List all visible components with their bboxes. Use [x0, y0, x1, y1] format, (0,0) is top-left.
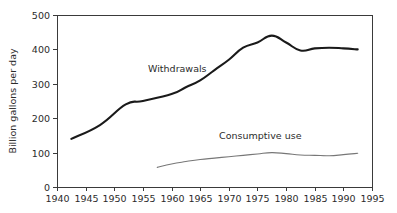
x-axis-tick-labels: 1940194519501955196019651970197519801985…: [45, 193, 384, 204]
x-tick-label: 1950: [102, 193, 126, 204]
series-annotation-consumptive-use: Consumptive use: [219, 130, 302, 141]
x-tick-label: 1980: [274, 193, 298, 204]
y-tick-label: 200: [32, 113, 50, 124]
plot-frame: [57, 15, 372, 187]
x-tick-label: 1975: [245, 193, 269, 204]
x-tick-label: 1960: [160, 193, 184, 204]
series-group: [71, 36, 357, 168]
x-tick-label: 1965: [188, 193, 212, 204]
y-tick-label: 300: [32, 79, 50, 90]
x-tick-label: 1995: [360, 193, 384, 204]
x-axis-ticks: [58, 187, 373, 191]
x-tick-label: 1945: [74, 193, 98, 204]
y-axis-tick-labels: 0100200300400500: [32, 10, 50, 193]
chart-figure: 0100200300400500 19401945195019551960196…: [0, 0, 397, 213]
y-tick-label: 100: [32, 148, 50, 159]
x-tick-label: 1970: [217, 193, 241, 204]
y-tick-label: 400: [32, 44, 50, 55]
y-axis-title: Billion gallons per day: [7, 48, 18, 154]
x-tick-label: 1940: [45, 193, 69, 204]
y-tick-label: 500: [32, 10, 50, 21]
y-tick-label: 0: [44, 182, 50, 193]
series-line-consumptive-use: [157, 153, 357, 168]
x-tick-label: 1955: [131, 193, 155, 204]
x-tick-label: 1990: [331, 193, 355, 204]
x-tick-label: 1985: [303, 193, 327, 204]
y-axis-ticks: [53, 16, 57, 188]
series-annotation-withdrawals: Withdrawals: [148, 63, 207, 74]
series-line-withdrawals: [71, 36, 357, 139]
line-chart: 0100200300400500 19401945195019551960196…: [0, 0, 397, 213]
